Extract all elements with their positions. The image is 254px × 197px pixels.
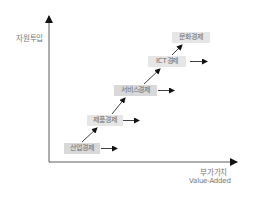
stage-box-culture-economy: 문화경제 bbox=[172, 32, 210, 43]
y-axis-label: 자원투입 bbox=[16, 32, 43, 43]
x-axis-label-en: Value-Added bbox=[189, 177, 231, 185]
stage-box-service-economy: 서비스경제 bbox=[114, 85, 157, 96]
stage-box-ict-economy: ICT경제 bbox=[148, 56, 186, 67]
x-axis-label-ko: 부가가치 bbox=[200, 166, 227, 177]
stage-box-industrial-economy: 산업경제 bbox=[64, 143, 100, 154]
stage-box-product-economy: 제품경제 bbox=[87, 115, 123, 126]
